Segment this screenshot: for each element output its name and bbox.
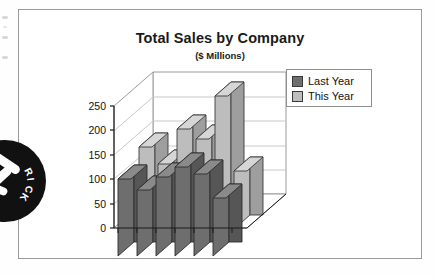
y-tick-0: 0 <box>80 222 106 234</box>
bar-last-year-6 <box>213 184 242 256</box>
y-tick-50: 50 <box>80 198 106 210</box>
legend-swatch-last-year <box>292 76 303 87</box>
scanned-page: Total Sales by Company ($ Millions) <box>0 0 436 277</box>
legend-item-this-year: This Year <box>292 89 366 104</box>
legend-label-this-year: This Year <box>308 91 354 102</box>
stamp-text: RICK <box>0 140 46 222</box>
chart-svg <box>18 9 422 259</box>
scan-artifact <box>2 56 8 59</box>
y-tick-200: 200 <box>80 124 106 136</box>
sales-bar-chart: Total Sales by Company ($ Millions) <box>18 9 422 259</box>
circular-ink-stamp: RICK <box>0 140 46 222</box>
legend-item-last-year: Last Year <box>292 74 366 89</box>
legend-swatch-this-year <box>292 91 303 102</box>
y-tick-100: 100 <box>80 173 106 185</box>
chart-legend: Last Year This Year <box>286 69 372 107</box>
scan-artifact <box>2 16 8 19</box>
y-tick-150: 150 <box>80 149 106 161</box>
chart-plot-area: 250 200 150 100 50 0 <box>18 9 422 259</box>
y-tick-250: 250 <box>80 100 106 112</box>
scan-artifact <box>3 26 7 28</box>
legend-label-last-year: Last Year <box>308 76 354 87</box>
scan-artifact <box>2 36 8 39</box>
